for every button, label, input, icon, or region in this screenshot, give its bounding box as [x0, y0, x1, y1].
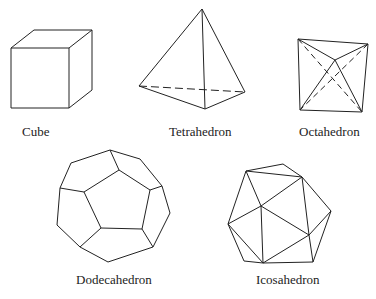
dodecahedron-label: Dodecahedron [76, 272, 152, 288]
icosahedron-label: Icosahedron [256, 272, 320, 288]
octahedron-label: Octahedron [299, 124, 360, 140]
tetrahedron-label: Tetrahedron [169, 124, 232, 140]
octahedron-figure [298, 39, 368, 112]
icosahedron-figure [228, 164, 331, 263]
tetrahedron-figure [139, 9, 245, 109]
cube-figure [11, 30, 92, 108]
cube-label: Cube [22, 124, 49, 140]
dodecahedron-figure [57, 150, 170, 262]
platonic-solids-diagram [0, 0, 376, 299]
